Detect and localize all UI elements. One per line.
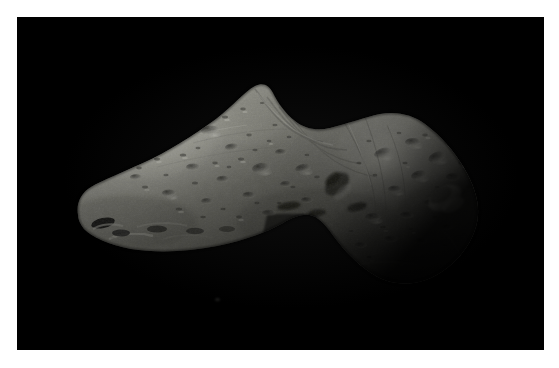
photo-page (0, 0, 559, 368)
asteroid-image (17, 17, 544, 350)
waist-notch-shadow (261, 214, 317, 243)
photo-plate (17, 17, 544, 350)
